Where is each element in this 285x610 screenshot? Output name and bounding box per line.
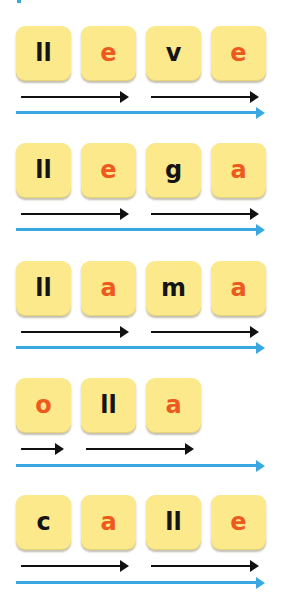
syllable-arrow-icon — [21, 448, 64, 450]
tile-letter: ll — [35, 158, 51, 182]
letter-tile: ll — [81, 378, 136, 433]
word-row-llama: ll a m a — [0, 261, 285, 356]
tile-letter: g — [165, 158, 182, 182]
tile-letter: a — [100, 276, 116, 300]
letter-tile: g — [146, 143, 201, 198]
tile-letter: v — [166, 41, 182, 65]
letter-tile: e — [211, 26, 266, 81]
word-arrow-icon — [16, 346, 265, 348]
letter-tile: a — [211, 261, 266, 316]
letter-tile: e — [81, 143, 136, 198]
tile-letter: ll — [35, 276, 51, 300]
tile-letter: ll — [100, 393, 116, 417]
tile-letter: ll — [165, 510, 181, 534]
letter-tile: a — [81, 495, 136, 550]
tile-letter: ll — [35, 41, 51, 65]
letter-tile: a — [211, 143, 266, 198]
letter-tile: ll — [16, 143, 71, 198]
word-row-lleve: ll e v e — [0, 26, 285, 121]
word-arrow-icon — [16, 581, 265, 583]
letter-tile: e — [211, 495, 266, 550]
letter-tile: c — [16, 495, 71, 550]
letter-tile: ll — [146, 495, 201, 550]
syllable-arrow-icon — [21, 213, 129, 215]
syllable-arrow-icon — [21, 565, 129, 567]
syllable-arrow-icon — [151, 213, 259, 215]
tile-letter: c — [36, 510, 50, 534]
syllable-arrow-icon — [21, 96, 129, 98]
tile-letter: e — [230, 41, 246, 65]
tile-letter: a — [230, 158, 246, 182]
syllable-arrow-icon — [151, 96, 259, 98]
letter-tile: a — [81, 261, 136, 316]
syllable-arrow-icon — [86, 448, 194, 450]
tile-letter: a — [165, 393, 181, 417]
tile-letter: a — [100, 510, 116, 534]
tile-letter: m — [161, 276, 186, 300]
letter-tile: ll — [16, 26, 71, 81]
letter-tile: v — [146, 26, 201, 81]
letter-tile: m — [146, 261, 201, 316]
word-arrow-icon — [16, 464, 265, 466]
word-row-olla: o ll a — [0, 378, 285, 473]
tile-letter: e — [100, 158, 116, 182]
word-row-llega: ll e g a — [0, 143, 285, 238]
word-row-calle: c a ll e — [0, 495, 285, 590]
tile-letter: e — [100, 41, 116, 65]
tile-letter: o — [35, 393, 52, 417]
letter-tile: ll — [16, 261, 71, 316]
word-arrow-icon — [16, 228, 265, 230]
letter-tile: o — [16, 378, 71, 433]
syllable-arrow-icon — [21, 331, 129, 333]
tile-letter: e — [230, 510, 246, 534]
word-arrow-icon — [16, 111, 265, 113]
letter-tile: a — [146, 378, 201, 433]
tile-letter: a — [230, 276, 246, 300]
syllable-arrow-icon — [151, 331, 259, 333]
letter-tile: e — [81, 26, 136, 81]
cropped-arrow-fragment — [17, 0, 21, 3]
syllable-arrow-icon — [151, 565, 259, 567]
